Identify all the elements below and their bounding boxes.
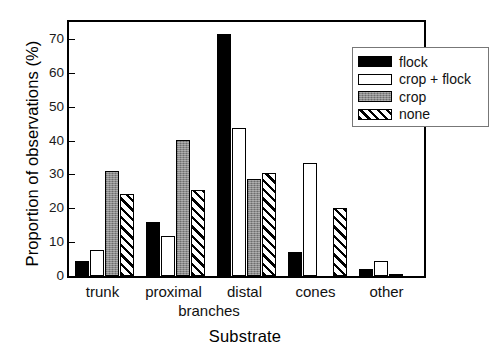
y-tick-label: 50 — [49, 99, 64, 114]
x-tick-label-trunk: trunk — [86, 283, 119, 300]
legend-item-crop-flock: crop + flock — [358, 71, 488, 89]
bar-other-flock — [359, 269, 373, 276]
y-tick-label: 70 — [49, 31, 64, 46]
x-tick-label-cones: cones — [295, 283, 335, 300]
legend-label-crop-flock: crop + flock — [399, 71, 471, 87]
bar-trunk-none — [120, 194, 134, 276]
legend-label-crop: crop — [399, 89, 426, 105]
x-tick-label-proximal: proximal — [145, 283, 202, 300]
legend-item-crop: crop — [358, 88, 488, 106]
bar-group-proximal — [140, 22, 211, 276]
bar-group-trunk — [69, 22, 140, 276]
bar-trunk-flock — [75, 261, 89, 276]
x-axis-title: Substrate — [60, 327, 430, 346]
bar-cones-flock — [288, 252, 302, 276]
chart-legend: flock crop + flock crop none — [352, 47, 489, 127]
y-tick-label: 60 — [49, 65, 64, 80]
bar-proximal-crop — [176, 140, 190, 276]
x-tick-label-other: other — [369, 283, 403, 300]
legend-swatch-flock — [358, 56, 392, 67]
bar-distal-flock — [217, 34, 231, 276]
bar-other-crop-plus-flock — [374, 261, 388, 276]
x-tick-sublabel-branches: branches — [178, 302, 240, 319]
legend-swatch-crop — [358, 91, 392, 102]
bar-cones-none — [333, 208, 347, 276]
bar-distal-crop-plus-flock — [232, 128, 246, 276]
legend-label-flock: flock — [399, 54, 428, 70]
bar-proximal-none — [191, 190, 205, 276]
bar-distal-none — [262, 173, 276, 276]
legend-item-flock: flock — [358, 53, 488, 71]
legend-label-none: none — [399, 106, 430, 122]
bar-trunk-crop — [105, 171, 119, 276]
bar-other-crop — [389, 274, 403, 276]
bar-proximal-crop-plus-flock — [161, 236, 175, 276]
bar-group-distal — [211, 22, 282, 276]
bar-group-cones — [282, 22, 353, 276]
x-axis-tick-labels: trunkproximaldistalconesotherbranches — [67, 283, 426, 323]
bar-trunk-crop-plus-flock — [90, 250, 104, 276]
plot-area: 010203040506070 flock crop + flock crop … — [67, 20, 426, 278]
bar-cones-crop-plus-flock — [303, 163, 317, 276]
legend-swatch-crop-flock — [358, 74, 392, 85]
bar-distal-crop — [247, 179, 261, 276]
y-tick-label: 20 — [49, 200, 64, 215]
bar-proximal-flock — [146, 222, 160, 276]
legend-item-none: none — [358, 106, 488, 124]
x-tick-label-distal: distal — [227, 283, 262, 300]
legend-swatch-none — [358, 109, 392, 120]
y-tick-label: 30 — [49, 167, 64, 182]
y-tick-label: 10 — [49, 234, 64, 249]
y-tick-label: 0 — [56, 268, 64, 283]
y-tick-mark — [68, 276, 75, 277]
y-tick-label: 40 — [49, 133, 64, 148]
y-axis-title: Proportion of observations (%) — [23, 4, 42, 304]
